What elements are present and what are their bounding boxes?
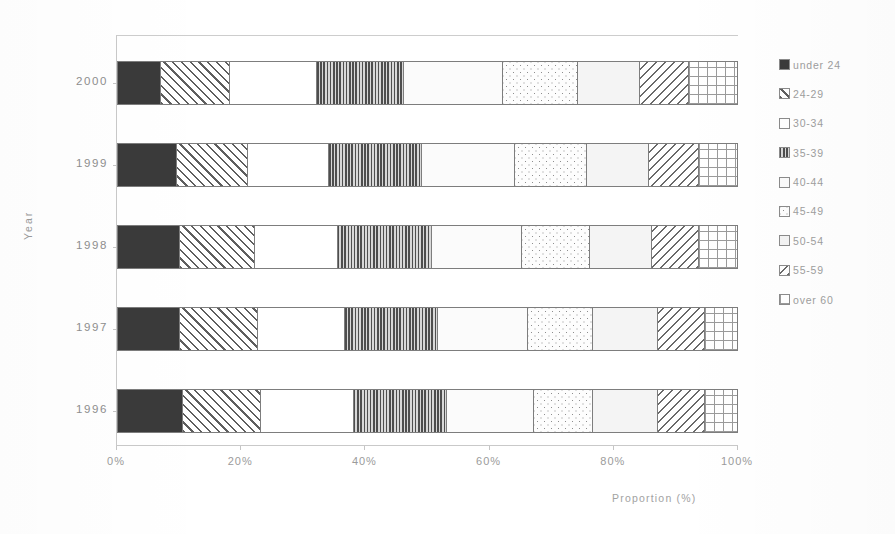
legend-swatch-icon [779,294,790,305]
x-axis-tick [737,446,738,450]
bar-segment-under-24 [117,143,176,187]
y-axis-label-1997: 1997 [38,321,108,333]
y-axis-label-1999: 1999 [38,157,108,169]
stacked-bar-1997 [117,307,738,351]
bar-segment-30-34 [229,61,316,105]
bar-segment-24-29 [179,225,254,269]
legend-item-55-59[interactable]: 55-59 [779,264,891,277]
y-axis-label-1996: 1996 [38,403,108,415]
stacked-bar-1996 [117,389,738,433]
legend-item-40-44[interactable]: 40-44 [779,176,891,189]
bar-segment-45-49 [527,307,592,351]
legend-item-50-54[interactable]: 50-54 [779,234,891,247]
bar-segment-30-34 [247,143,328,187]
x-axis-tick [489,446,490,450]
legend: under 2424-2930-3435-3940-4445-4950-5455… [779,58,891,323]
bar-segment-24-29 [176,143,247,187]
bar-row [117,61,738,105]
legend-item-45-49[interactable]: 45-49 [779,205,891,218]
bar-segment-over-60 [704,307,738,351]
x-axis-label-20%: 20% [228,455,253,467]
bar-segment-55-59 [657,307,704,351]
bar-segment-40-44 [446,389,533,433]
bar-segment-35-39 [353,389,446,433]
legend-item-24-29[interactable]: 24-29 [779,87,891,100]
x-axis-tick [116,446,117,450]
legend-swatch-icon [779,147,790,158]
bar-segment-35-39 [328,143,421,187]
legend-label: 24-29 [793,88,824,100]
bar-segment-55-59 [657,389,704,433]
x-axis-label-100%: 100% [721,455,753,467]
x-axis-label-60%: 60% [476,455,501,467]
legend-swatch-icon [779,177,790,188]
plot-area [116,35,738,446]
legend-label: under 24 [793,59,841,71]
bar-segment-40-44 [431,225,521,269]
legend-label: 35-39 [793,147,824,159]
stacked-bar-2000 [117,61,738,105]
y-axis-tick [113,329,117,330]
bar-segment-35-39 [316,61,403,105]
bar-segment-over-60 [698,225,738,269]
bar-segment-50-54 [592,307,657,351]
bar-segment-50-54 [577,61,639,105]
y-axis-label-1998: 1998 [38,239,108,251]
legend-swatch-icon [779,118,790,129]
y-axis-label-2000: 2000 [38,75,108,87]
bar-segment-24-29 [182,389,260,433]
y-axis-tick [113,83,117,84]
stacked-bar-1998 [117,225,738,269]
legend-item-35-39[interactable]: 35-39 [779,146,891,159]
y-axis-tick [113,411,117,412]
x-axis-label-80%: 80% [600,455,625,467]
y-axis-tick [113,165,117,166]
legend-swatch-icon [779,265,790,276]
legend-item-30-34[interactable]: 30-34 [779,117,891,130]
bar-segment-30-34 [260,389,353,433]
bar-row [117,307,738,351]
x-axis-tick [613,446,614,450]
bar-segment-over-60 [704,389,738,433]
x-axis-tick [240,446,241,450]
bar-segment-50-54 [589,225,651,269]
legend-swatch-icon [779,206,790,217]
bar-segment-30-34 [257,307,344,351]
legend-item-over-60[interactable]: over 60 [779,293,891,306]
legend-label: 45-49 [793,205,824,217]
bar-segment-55-59 [648,143,698,187]
bar-segment-45-49 [533,389,592,433]
bar-segment-under-24 [117,61,160,105]
bar-segment-35-39 [344,307,437,351]
legend-label: 50-54 [793,235,824,247]
legend-label: 30-34 [793,117,824,129]
bar-segment-45-49 [514,143,585,187]
legend-label: 40-44 [793,176,824,188]
bar-segment-40-44 [421,143,514,187]
x-axis-tick [364,446,365,450]
bar-segment-30-34 [254,225,338,269]
bar-segment-55-59 [639,61,689,105]
bar-segment-24-29 [179,307,257,351]
x-axis-label-40%: 40% [352,455,377,467]
bar-segment-40-44 [437,307,527,351]
stacked-bar-1999 [117,143,738,187]
stacked-bar-chart-figure: Year 20001999199819971996 0%20%40%60%80%… [0,0,895,534]
bar-segment-under-24 [117,307,179,351]
bar-segment-50-54 [586,143,648,187]
bar-segment-under-24 [117,225,179,269]
legend-label: over 60 [793,294,834,306]
legend-label: 55-59 [793,264,824,276]
bar-segment-40-44 [403,61,502,105]
legend-item-under-24[interactable]: under 24 [779,58,891,71]
x-axis-label-0%: 0% [107,455,125,467]
bar-row [117,143,738,187]
bar-segment-24-29 [160,61,228,105]
bar-segment-35-39 [337,225,430,269]
legend-swatch-icon [779,88,790,99]
bar-segment-50-54 [592,389,657,433]
y-axis-tick-labels: 20001999199819971996 [24,35,108,445]
bar-row [117,225,738,269]
bar-segment-over-60 [688,61,738,105]
x-axis-tick-labels: 0%20%40%60%80%100% [116,446,738,456]
